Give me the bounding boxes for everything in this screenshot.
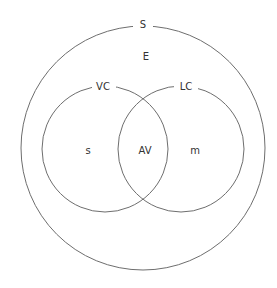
lc-set-label: LC — [180, 81, 193, 92]
intersection-label: AV — [138, 145, 151, 156]
outer-region-label: E — [143, 51, 149, 62]
outer-set-label: S — [140, 19, 146, 30]
vc-only-region-label: s — [85, 145, 90, 156]
lc-set-circle — [118, 86, 244, 212]
vc-set-label: VC — [96, 81, 110, 92]
venn-diagram: S E VC LC s AV m — [0, 0, 277, 288]
lc-only-region-label: m — [190, 145, 200, 156]
